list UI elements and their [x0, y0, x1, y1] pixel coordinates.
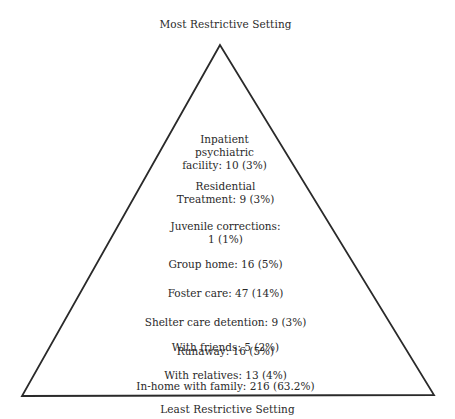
level-text: Group home: 16 (5%) [0, 258, 453, 271]
level-text: Treatment: 9 (3%) [0, 193, 453, 206]
level-text: psychiatric [0, 146, 452, 159]
level-text: In-home with family: 216 (63.2%) [0, 380, 453, 393]
level-text: With friends: 5 (2%) [0, 341, 453, 354]
least-restrictive-label: Least Restrictive Setting [0, 403, 455, 415]
level-text: facility: 10 (3%) [0, 159, 452, 172]
level-inpatient-psychiatric: Inpatient psychiatric facility: 10 (3%) [0, 133, 452, 172]
level-text: Juvenile corrections: [0, 220, 453, 233]
level-foster-care: Foster care: 47 (14%) [0, 287, 453, 300]
level-text: Inpatient [0, 133, 452, 146]
level-text: Foster care: 47 (14%) [0, 287, 453, 300]
level-group-home: Group home: 16 (5%) [0, 258, 453, 271]
level-in-home-with-family: In-home with family: 216 (63.2%) [0, 380, 453, 393]
level-text: Residential [0, 180, 453, 193]
level-juvenile-corrections: Juvenile corrections: 1 (1%) [0, 220, 453, 246]
level-text: 1 (1%) [0, 233, 453, 246]
level-residential-treatment: Residential Treatment: 9 (3%) [0, 180, 453, 206]
level-shelter-care-detention: Shelter care detention: 9 (3%) [0, 316, 453, 329]
level-with-friends: With friends: 5 (2%) [0, 341, 453, 354]
level-text: Shelter care detention: 9 (3%) [0, 316, 453, 329]
